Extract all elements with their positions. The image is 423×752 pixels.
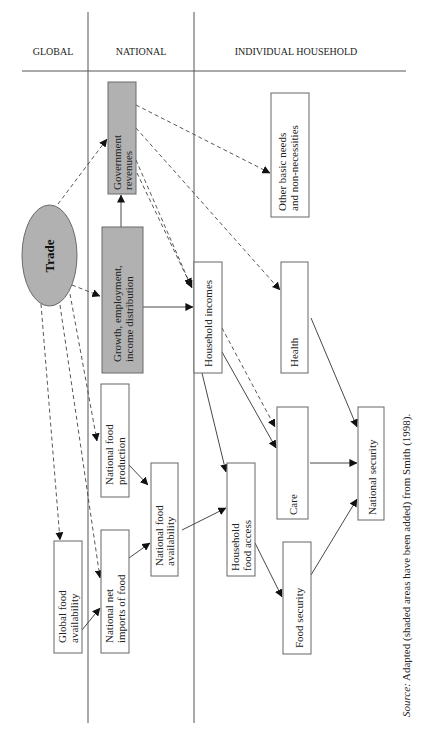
node-label-line: income distribution xyxy=(123,276,135,362)
node-label-line: availability xyxy=(164,516,176,566)
node-label-line: National net xyxy=(103,589,115,643)
edge-trade-to-government-revenues xyxy=(58,139,107,204)
node-health: Health xyxy=(281,262,308,373)
node-label-line: availability xyxy=(68,593,80,643)
node-care: Care xyxy=(277,407,308,519)
node-national-food-availability: National food availability xyxy=(151,463,178,576)
node-label-line: Growth, employment, xyxy=(111,265,123,362)
edge-food-security-to-national-security xyxy=(311,499,357,575)
edge-global-food-availability-to-national-net-imports xyxy=(82,608,100,630)
header-individual-household: INDIVIDUAL HOUSEHOLD xyxy=(235,46,358,57)
node-food-security: Food security xyxy=(283,542,311,654)
node-label-line: imports of food xyxy=(115,574,127,643)
node-government-revenues: Government revenues xyxy=(108,82,136,194)
node-label-line: food access xyxy=(241,520,253,571)
edge-household-incomes-to-care-dashed xyxy=(222,328,275,427)
edge-national-food-availability-to-household-food-access xyxy=(182,508,226,530)
node-label-line: Global food xyxy=(56,590,68,643)
node-label-line: Other basic needs xyxy=(276,133,288,211)
source-text: Adapted (shaded areas have been added) f… xyxy=(400,414,413,684)
node-national-net-imports-of-food: National net imports of food xyxy=(101,530,129,653)
node-label-line: and non-necessities xyxy=(288,125,300,211)
edge-household-food-access-to-food-security xyxy=(255,543,282,597)
node-other-basic-needs: Other basic needs and non-necessities xyxy=(271,93,309,217)
edge-government-revenues-to-other-basic-needs xyxy=(136,105,270,173)
node-growth-employment-income-distribution: Growth, employment, income distribution xyxy=(102,227,143,373)
trade-label: Trade xyxy=(42,239,57,272)
header-global: GLOBAL xyxy=(33,46,74,57)
node-label-line: Food security xyxy=(293,587,305,648)
node-label-line: National food xyxy=(103,424,115,485)
node-household-incomes: Household incomes xyxy=(194,262,222,373)
edge-government-revenues-to-household-incomes-1 xyxy=(136,160,191,286)
source-caption: Source: Adapted (shaded areas have been … xyxy=(400,414,413,717)
edge-household-incomes-to-care xyxy=(222,352,276,448)
edge-trade-to-growth xyxy=(72,285,100,296)
edge-government-revenues-to-household-incomes-2 xyxy=(137,173,192,288)
node-label-line: Household incomes xyxy=(202,280,214,367)
node-trade: Trade xyxy=(22,205,77,306)
node-household-food-access: Household food access xyxy=(227,463,255,576)
edge-national-net-imports-to-national-food-availability xyxy=(129,543,150,558)
header-national: NATIONAL xyxy=(116,46,167,57)
source-prefix: Source: xyxy=(400,683,412,717)
node-global-food-availability: Global food availability xyxy=(54,541,82,653)
edge-health-to-national-security xyxy=(311,318,357,427)
edge-trade-to-national-net-imports xyxy=(60,305,100,578)
edge-household-incomes-to-household-food-access xyxy=(202,373,226,472)
food-security-trade-diagram: GLOBAL NATIONAL INDIVIDUAL HOUSEHOLD Tra… xyxy=(0,0,423,752)
node-national-food-production: National food production xyxy=(101,384,129,497)
edge-trade-to-national-food-production xyxy=(70,294,97,441)
node-label-line: production xyxy=(115,437,127,485)
node-label-line: National security xyxy=(366,439,378,515)
node-label-line: revenues xyxy=(122,151,134,190)
edge-national-food-production-to-national-food-availability xyxy=(129,465,148,485)
node-national-security: National security xyxy=(358,407,384,520)
node-label-line: Health xyxy=(288,337,300,367)
edge-trade-to-global-food-availability xyxy=(41,304,60,540)
node-label-line: Care xyxy=(287,494,299,515)
node-label-line: Household xyxy=(229,523,241,571)
